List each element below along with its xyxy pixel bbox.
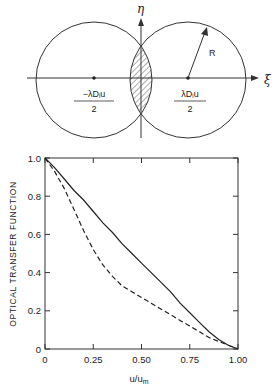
- y-tick-label: 0: [36, 344, 41, 355]
- y-tick-label: 0.4: [28, 267, 41, 278]
- y-tick-labels: 00.20.40.60.81.0: [28, 153, 41, 355]
- x-tick-label: 0.25: [84, 354, 103, 365]
- y-tick-label: 0.6: [28, 229, 41, 240]
- y-tick-label: 0.8: [28, 191, 41, 202]
- plot-frame: [45, 158, 238, 349]
- x-tick-labels: 00.250.500.751.00: [42, 354, 247, 365]
- otf-chart: 00.20.40.60.81.0 00.250.500.751.00 OPTIC…: [0, 0, 277, 389]
- x-axis-label: u/um: [129, 373, 148, 385]
- dashed-curve: [45, 158, 238, 349]
- solid-curve: [45, 158, 238, 349]
- y-axis-label: OPTICAL TRANSFER FUNCTION: [8, 181, 18, 326]
- y-tick-label: 0.2: [28, 305, 41, 316]
- ticks: [45, 158, 238, 349]
- y-tick-label: 1.0: [28, 153, 41, 164]
- x-tick-label: 0.50: [132, 354, 151, 365]
- x-tick-label: 0: [42, 354, 47, 365]
- x-tick-label: 1.00: [229, 354, 248, 365]
- x-tick-label: 0.75: [181, 354, 200, 365]
